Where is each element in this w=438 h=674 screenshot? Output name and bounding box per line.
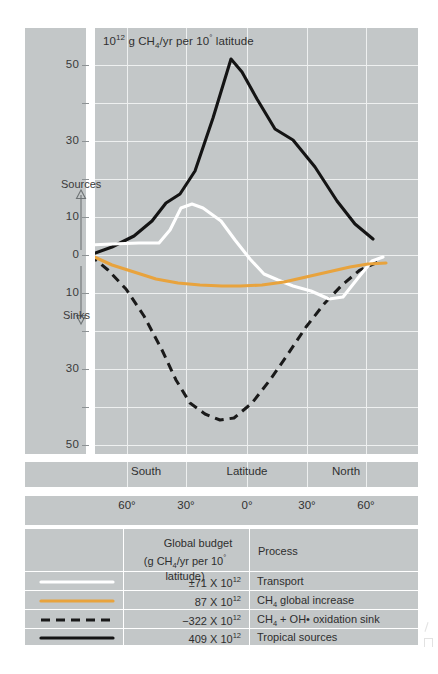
legend-budget-tropical-sources: 409 X 1012 <box>121 631 241 645</box>
legend-budget-tropical-exponent: 12 <box>233 631 241 640</box>
legend-swatch-ch4-global-increase <box>37 592 117 610</box>
ytick-zero <box>82 255 89 256</box>
legend-process-sink-pre: CH <box>257 613 273 625</box>
legend-swatch-oxidation-sink <box>37 611 117 629</box>
sinks-annotation-label: Sinks <box>63 309 90 321</box>
legend-table: Global budget (g CH4/yr per 10° latitude… <box>25 528 418 646</box>
legend-budget-ch4-value: 87 X 10 <box>195 596 233 608</box>
legend-budget-sink-value: −322 X 10 <box>182 615 232 627</box>
legend-budget-ch4-exponent: 12 <box>233 594 241 603</box>
x-tick-label-30-south: 30° <box>166 499 206 511</box>
legend-header-budget-line1: Global budget <box>153 537 243 549</box>
unit-title-end: latitude <box>212 35 253 47</box>
legend-process-tropical-sources: Tropical sources <box>257 631 337 643</box>
methane-latitude-figure: 50 30 10 0 10 30 50 1012 g CH4/yr per 10… <box>0 0 438 674</box>
legend-process-ch4-pre: CH <box>257 594 273 606</box>
ytick-30n <box>82 369 89 370</box>
gridline-y-zero <box>95 255 418 256</box>
x-region-label-north: North <box>306 465 386 477</box>
legend-process-oxidation-sink: CH4 + OH• oxidation sink <box>257 613 380 628</box>
legend-header-units-pre: (g CH <box>144 555 173 567</box>
gridline-y-10p <box>95 217 418 218</box>
x-axis-band-lower <box>25 487 418 496</box>
unit-title-exponent: 12 <box>116 33 125 42</box>
legend-header-process: Process <box>258 545 298 557</box>
y-axis-band <box>86 28 95 458</box>
x-tick-label-60-south: 60° <box>107 499 147 511</box>
gridline-y-50n <box>95 445 418 446</box>
legend-process-transport: Transport <box>257 575 304 587</box>
unit-title-post: /yr per 10 <box>160 35 210 47</box>
x-region-label-latitude: Latitude <box>207 465 287 477</box>
y-axis-label-10-negative: 10 <box>47 286 79 298</box>
ytick-40p <box>82 103 89 104</box>
legend-budget-ch4-global-increase: 87 X 1012 <box>121 594 241 608</box>
x-tick-label-0: 0° <box>227 499 267 511</box>
legend-process-tropical-text: Tropical sources <box>257 631 337 643</box>
legend-process-ch4-post: global increase <box>277 594 354 606</box>
legend-budget-transport-exponent: 12 <box>233 575 241 584</box>
legend-swatch-transport <box>37 573 117 591</box>
y-axis-label-50-positive: 50 <box>47 58 79 70</box>
gridline-y-30n <box>95 369 418 370</box>
x-axis-band-upper <box>25 454 418 462</box>
legend-budget-oxidation-sink: −322 X 1012 <box>121 613 241 627</box>
legend-swatch-tropical-sources <box>37 629 117 647</box>
y-axis-label-10-positive: 10 <box>47 210 79 222</box>
legend-budget-transport-value: ±71 X 10 <box>189 577 233 589</box>
unit-title-mid: g CH <box>125 35 155 47</box>
chart-unit-title: 1012 g CH4/yr per 10° latitude <box>103 33 254 50</box>
gridline-y-20n <box>95 331 418 332</box>
ytick-30p <box>82 141 89 142</box>
gridline-y-30p <box>95 141 418 142</box>
unit-title-base: 10 <box>103 35 116 47</box>
gridline-x-30n <box>307 28 308 490</box>
ytick-10n <box>82 293 89 294</box>
y-axis-label-30-positive: 30 <box>47 134 79 146</box>
legend-process-transport-text: Transport <box>257 575 304 587</box>
gridline-x-30s <box>186 28 187 490</box>
legend-header-units-mid: /yr per 10 <box>177 555 223 567</box>
legend-rule-top <box>25 528 418 529</box>
legend-header-units-degree: ° <box>223 553 226 562</box>
x-region-label-south: South <box>106 465 186 477</box>
x-tick-label-60-north: 60° <box>346 499 386 511</box>
y-axis-label-50-negative: 50 <box>47 438 79 450</box>
ytick-20n <box>82 331 89 332</box>
gridline-x-0 <box>247 28 248 490</box>
gridline-y-10n <box>95 293 418 294</box>
page-edge-artifact <box>424 622 436 648</box>
gridline-x-60s <box>127 28 128 490</box>
ytick-50p <box>82 65 89 66</box>
gridline-x-60n <box>366 28 367 490</box>
legend-column-divider-process <box>249 528 250 646</box>
legend-process-ch4-global-increase: CH4 global increase <box>257 594 354 609</box>
legend-process-sink-post: + OH• oxidation sink <box>277 613 380 625</box>
legend-budget-sink-exponent: 12 <box>233 613 241 622</box>
sources-annotation-label: Sources <box>61 178 101 190</box>
legend-budget-tropical-value: 409 X 10 <box>189 633 233 645</box>
gridline-y-40n <box>95 407 418 408</box>
legend-budget-transport: ±71 X 1012 <box>121 575 241 589</box>
ytick-10p <box>82 217 89 218</box>
gridline-y-50p <box>95 65 418 66</box>
gridline-y-20p <box>95 179 418 180</box>
ytick-40n <box>82 407 89 408</box>
y-axis-label-zero: 0 <box>47 248 79 260</box>
ytick-50n <box>82 445 89 446</box>
gridline-y-40p <box>95 103 418 104</box>
y-axis-label-30-negative: 30 <box>47 362 79 374</box>
x-tick-label-30-north: 30° <box>287 499 327 511</box>
